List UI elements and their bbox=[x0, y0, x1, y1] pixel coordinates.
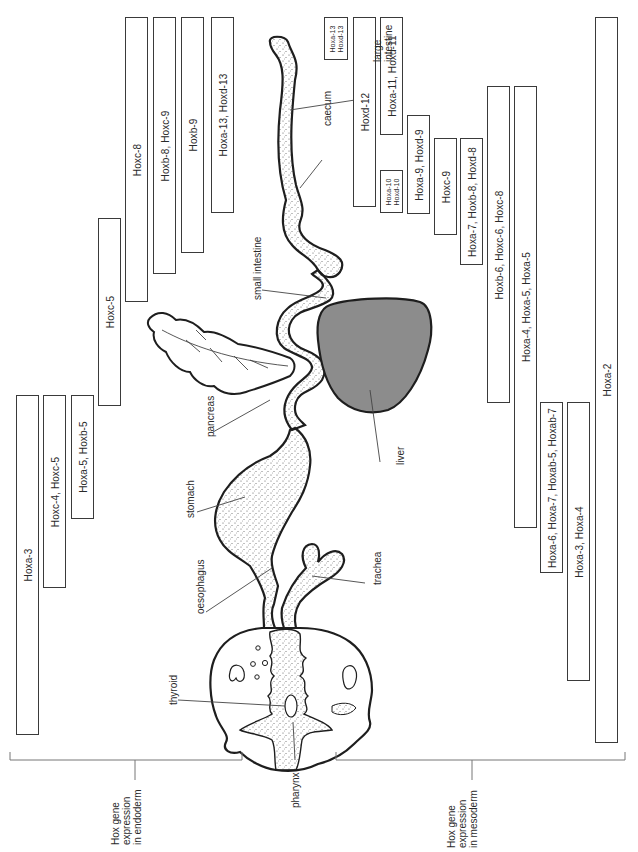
organ-label: oesophagus bbox=[195, 560, 206, 615]
gene-label: Hoxa-7, Hoxb-8, Hoxd-8 bbox=[466, 146, 477, 256]
expression-box: Hoxa-4, Hoxa-5, Hoxa-5 bbox=[514, 86, 537, 528]
mesoderm-group-label: Hox gene expression in mesoderm bbox=[446, 790, 479, 848]
expression-box: Hoxa-3 bbox=[16, 395, 39, 735]
expression-box: Hoxa-5, Hoxb-5 bbox=[71, 395, 94, 519]
gene-label: Hoxa-5, Hoxb-5 bbox=[77, 421, 88, 492]
gene-label: Hoxa-6, Hoxa-7, Hoxab-5, Hoxab-7 bbox=[546, 408, 557, 568]
expression-box: Hoxc-8 bbox=[125, 17, 148, 302]
expression-box: Hoxa-10 Hoxd-10 bbox=[380, 170, 403, 213]
gene-label: Hoxa-3 bbox=[22, 549, 33, 582]
gene-label: Hoxa-13 Hoxd-13 bbox=[329, 25, 344, 52]
trachea-shape bbox=[282, 544, 344, 628]
expression-box: Hoxb-9 bbox=[181, 17, 204, 253]
expression-box: Hoxb-8, Hoxc-9 bbox=[153, 17, 176, 274]
organ-label: liver bbox=[395, 447, 406, 465]
expression-box: Hoxc-4, Hoxc-5 bbox=[43, 395, 66, 588]
organ-label: trachea bbox=[372, 552, 383, 585]
gene-label: Hoxa-2 bbox=[601, 364, 612, 397]
gene-label: Hoxa-9, Hoxd-9 bbox=[413, 129, 424, 200]
gene-label: Hoxa-13, Hoxd-13 bbox=[217, 74, 228, 157]
expression-box: Hoxa-7, Hoxb-8, Hoxd-8 bbox=[460, 138, 483, 265]
gene-label: Hoxb-8, Hoxc-9 bbox=[159, 110, 170, 181]
expression-box: Hoxb-6, Hoxc-6, Hoxc-8 bbox=[487, 86, 510, 403]
expression-box: Hoxa-9, Hoxd-9 bbox=[407, 115, 430, 214]
endoderm-group-label: Hox gene expression in endoderm bbox=[110, 789, 143, 845]
large-intestine-shape bbox=[270, 37, 342, 277]
gene-label: Hoxc-4, Hoxc-5 bbox=[49, 456, 60, 526]
organ-label: pharynx bbox=[290, 772, 301, 808]
gene-label: Hoxa-4, Hoxa-5, Hoxa-5 bbox=[520, 252, 531, 362]
expression-box: Hoxa-2 bbox=[595, 17, 618, 743]
expression-box: Hoxa-13 Hoxd-13 bbox=[324, 17, 348, 60]
pharynx-shape bbox=[210, 628, 372, 771]
gene-label: Hoxa-3, Hoxa-4 bbox=[573, 506, 584, 577]
pancreas-shape bbox=[148, 313, 295, 394]
gene-label: Hoxc-5 bbox=[104, 296, 115, 328]
gene-label: Hoxb-9 bbox=[187, 119, 198, 152]
gene-label: Hoxc-9 bbox=[440, 170, 451, 202]
expression-box: Hoxa-6, Hoxa-7, Hoxab-5, Hoxab-7 bbox=[540, 402, 563, 573]
endoderm-bracket bbox=[10, 752, 242, 760]
organ-label: pancreas bbox=[205, 396, 216, 437]
expression-box: Hoxa-3, Hoxa-4 bbox=[567, 402, 590, 681]
expression-box: Hoxa-13, Hoxd-13 bbox=[211, 17, 234, 213]
hox-expression-diagram: Hoxa-3Hoxc-4, Hoxc-5Hoxa-5, Hoxb-5Hoxc-5… bbox=[0, 0, 638, 852]
organ-label: small intestine bbox=[252, 237, 263, 300]
organ-label: caecum bbox=[322, 91, 333, 126]
gene-label: Hoxd-12 bbox=[359, 93, 370, 132]
liver-shape bbox=[318, 298, 432, 412]
expression-box: Hoxc-5 bbox=[98, 218, 121, 406]
organ-label: large intestine bbox=[372, 25, 394, 62]
gene-label: Hoxb-6, Hoxc-6, Hoxc-8 bbox=[493, 190, 504, 299]
organ-label: stomach bbox=[185, 480, 196, 518]
gene-label: Hoxc-8 bbox=[131, 143, 142, 175]
gene-label: Hoxa-10 Hoxd-10 bbox=[384, 178, 399, 205]
expression-box: Hoxc-9 bbox=[434, 138, 457, 235]
organ-label: thyroid bbox=[168, 675, 179, 705]
mesoderm-bracket bbox=[336, 752, 625, 760]
